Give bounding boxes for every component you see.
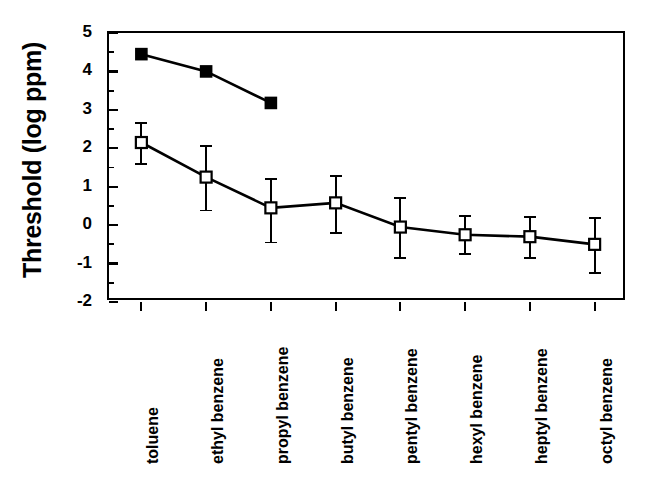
plot-area [107, 31, 625, 300]
plot-inner [109, 33, 623, 298]
y-axis-tick-label: 3 [62, 100, 92, 117]
x-axis-tick-label: toluene [145, 407, 161, 464]
x-axis-tick-label: butyl benzene [340, 357, 356, 464]
data-point-marker [201, 172, 212, 183]
data-line-open-square-series [141, 143, 594, 245]
y-axis-tick-label: -2 [62, 292, 92, 309]
y-axis-tick-label: 5 [62, 23, 92, 40]
y-axis-title: Threshold (log ppm) [14, 10, 50, 310]
data-line-filled-square-series [141, 54, 271, 103]
x-axis-tick-label: ethyl benzene [210, 358, 226, 464]
x-axis-tick-label: propyl benzene [275, 347, 291, 464]
data-point-marker [395, 222, 406, 233]
x-axis-tick-label: hexyl benzene [469, 355, 485, 464]
data-point-marker [136, 49, 147, 60]
data-point-marker [330, 197, 341, 208]
x-axis-tick-label: pentyl benzene [404, 348, 420, 464]
y-axis-tick-label: 2 [62, 138, 92, 155]
data-point-marker [136, 137, 147, 148]
chart-figure: Threshold (log ppm) 543210-1-2 tolueneet… [0, 0, 658, 487]
data-point-marker [589, 239, 600, 250]
data-point-marker [265, 97, 276, 108]
y-axis-tick-labels: 543210-1-2 [58, 0, 92, 487]
y-axis-tick-label: 1 [62, 177, 92, 194]
data-point-marker [524, 231, 535, 242]
y-axis-tick-label: 0 [62, 215, 92, 232]
data-point-marker [460, 229, 471, 240]
data-point-marker [201, 66, 212, 77]
plot-graphics [109, 33, 627, 302]
y-axis-tick-label: -1 [62, 254, 92, 271]
data-point-marker [265, 202, 276, 213]
x-axis-tick-label: octyl benzene [599, 358, 615, 464]
y-axis-tick-label: 4 [62, 61, 92, 78]
x-axis-tick-label: heptyl benzene [534, 348, 550, 464]
